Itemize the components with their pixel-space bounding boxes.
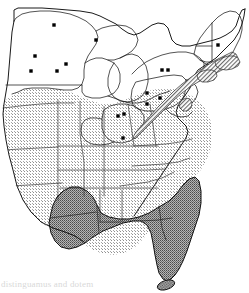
record-dot: Pennsylvania east [158, 96, 161, 99]
record-dot: Ohio south [121, 136, 124, 139]
record-dot: Wisconsin central [64, 62, 67, 65]
record-dot: Ohio northwest [116, 114, 119, 117]
record-dot: Upper Michigan [94, 38, 97, 41]
caption-text-fragment: distinguamus and dotem [1, 279, 151, 291]
record-dot: Pennsylvania northeast [145, 102, 148, 105]
record-dot: Ohio north [122, 112, 125, 115]
record-dot: New York west [160, 68, 163, 71]
record-dot: Pennsylvania west [145, 91, 148, 94]
record-dot: Minnesota central [33, 54, 36, 57]
record-dot: Minnesota north [52, 23, 55, 26]
record-dot: New Hampshire [216, 43, 219, 46]
record-dot: Lower Michigan [55, 69, 58, 72]
us-distribution-map: Minnesota northMinnesota centralMinnesot… [0, 0, 249, 293]
distribution-map-figure: Minnesota northMinnesota centralMinnesot… [0, 0, 249, 293]
record-dot: Minnesota south [29, 69, 32, 72]
record-dot: New York central [166, 68, 169, 71]
long-island-hatch [197, 70, 217, 82]
